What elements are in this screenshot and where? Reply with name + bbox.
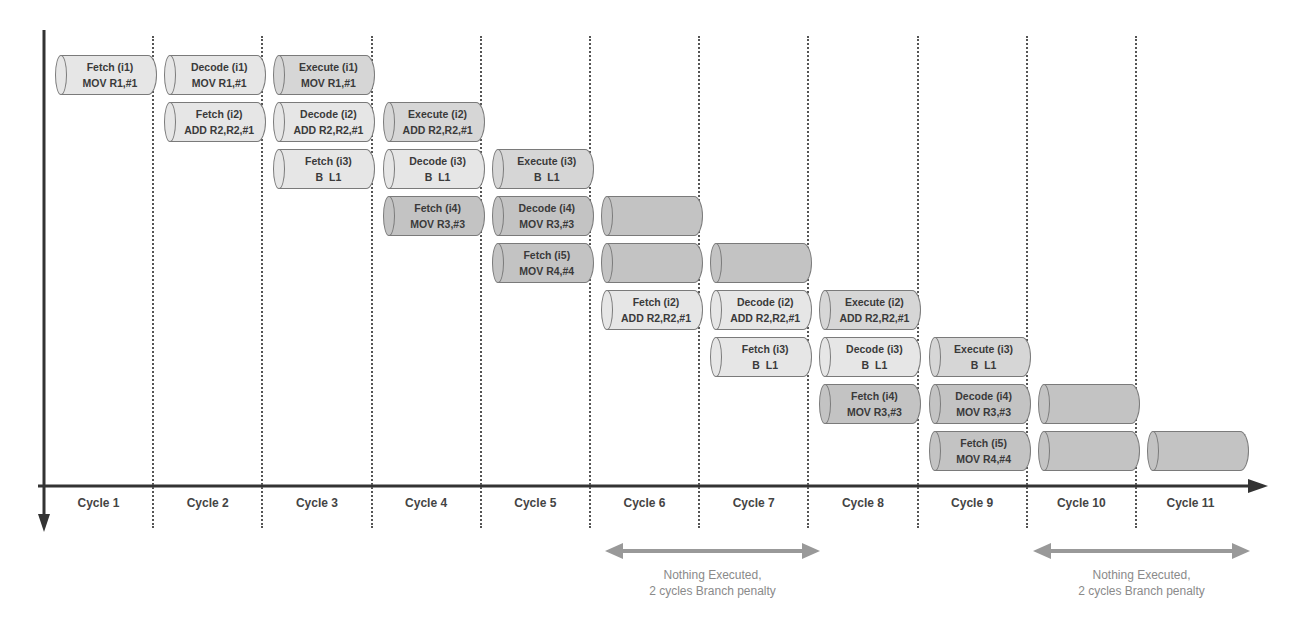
- pipeline-stage: Decode (i3)B L1: [819, 337, 921, 377]
- note-line-2: 2 cycles Branch penalty: [1033, 583, 1250, 599]
- pipeline-stage: Execute (i3)B L1: [929, 337, 1031, 377]
- cylinder-cap: [601, 243, 613, 283]
- pipeline-stage: Fetch (i3)B L1: [710, 337, 812, 377]
- stage-text: Execute (i1)MOV R1,#1: [283, 59, 373, 91]
- stage-label: Decode (i1): [174, 59, 264, 75]
- note-line-1: Nothing Executed,: [605, 567, 820, 583]
- instruction-label: B L1: [939, 357, 1029, 373]
- pipeline-stage: Fetch (i5)MOV R4,#4: [492, 243, 594, 283]
- cycle-label: Cycle 10: [1027, 496, 1136, 510]
- stage-label: Fetch (i5): [939, 435, 1029, 451]
- cycle-label: Cycle 3: [262, 496, 371, 510]
- instruction-label: B L1: [829, 357, 919, 373]
- stage-label: Execute (i3): [939, 341, 1029, 357]
- stage-label: Decode (i3): [393, 153, 483, 169]
- cylinder-cap: [1038, 384, 1050, 424]
- cylinder-body: [1044, 431, 1140, 471]
- stage-text: Decode (i3)B L1: [393, 153, 483, 185]
- cycle-label: Cycle 2: [153, 496, 262, 510]
- stage-text: Fetch (i4)MOV R3,#3: [829, 388, 919, 420]
- stage-label: Execute (i1): [283, 59, 373, 75]
- stage-label: Execute (i3): [502, 153, 592, 169]
- note-line-2: 2 cycles Branch penalty: [605, 583, 820, 599]
- stage-text: Decode (i2)ADD R2,R2,#1: [283, 106, 373, 138]
- stage-label: Fetch (i4): [829, 388, 919, 404]
- pipeline-stage: Execute (i3)B L1: [492, 149, 594, 189]
- stage-text: Fetch (i1)MOV R1,#1: [65, 59, 155, 91]
- instruction-label: MOV R1,#1: [174, 75, 264, 91]
- stage-text: Execute (i2)ADD R2,R2,#1: [393, 106, 483, 138]
- pipeline-stage: Fetch (i1)MOV R1,#1: [55, 55, 157, 95]
- pipeline-stage: Decode (i2)ADD R2,R2,#1: [273, 102, 375, 142]
- stage-label: Decode (i2): [283, 106, 373, 122]
- cylinder-body: [716, 243, 812, 283]
- instruction-label: ADD R2,R2,#1: [283, 122, 373, 138]
- stage-text: Decode (i2)ADD R2,R2,#1: [720, 294, 810, 326]
- stage-text: Fetch (i4)MOV R3,#3: [393, 200, 483, 232]
- pipeline-stage: Decode (i4)MOV R3,#3: [929, 384, 1031, 424]
- stage-label: Fetch (i2): [611, 294, 701, 310]
- instruction-label: ADD R2,R2,#1: [829, 310, 919, 326]
- stage-text: Fetch (i5)MOV R4,#4: [502, 247, 592, 279]
- pipeline-stage: Execute (i1)MOV R1,#1: [273, 55, 375, 95]
- stage-label: Fetch (i3): [283, 153, 373, 169]
- pipeline-bubble: [710, 243, 812, 283]
- instruction-label: MOV R3,#3: [939, 404, 1029, 420]
- stage-label: Decode (i4): [939, 388, 1029, 404]
- cycle-label: Cycle 5: [481, 496, 590, 510]
- cycle-label: Cycle 7: [699, 496, 808, 510]
- pipeline-bubble: [1038, 384, 1140, 424]
- cylinder-cap: [601, 196, 613, 236]
- instruction-label: B L1: [502, 169, 592, 185]
- branch-penalty-note: Nothing Executed,2 cycles Branch penalty: [1033, 567, 1250, 599]
- stage-label: Decode (i4): [502, 200, 592, 216]
- instruction-label: ADD R2,R2,#1: [720, 310, 810, 326]
- pipeline-bubble: [601, 196, 703, 236]
- cylinder-cap: [1038, 431, 1050, 471]
- cylinder-body: [1044, 384, 1140, 424]
- stage-label: Execute (i2): [393, 106, 483, 122]
- stage-text: Decode (i4)MOV R3,#3: [939, 388, 1029, 420]
- stage-label: Fetch (i5): [502, 247, 592, 263]
- cylinder-body: [607, 196, 703, 236]
- left-arrowhead-icon: [605, 543, 623, 559]
- stage-label: Execute (i2): [829, 294, 919, 310]
- right-arrowhead-icon: [1232, 543, 1250, 559]
- pipeline-stage: Fetch (i2)ADD R2,R2,#1: [601, 290, 703, 330]
- pipeline-stage: Execute (i2)ADD R2,R2,#1: [383, 102, 485, 142]
- pipeline-stage: Decode (i2)ADD R2,R2,#1: [710, 290, 812, 330]
- pipeline-stage: Fetch (i2)ADD R2,R2,#1: [164, 102, 266, 142]
- pipeline-stage: Decode (i4)MOV R3,#3: [492, 196, 594, 236]
- pipeline-diagram: Fetch (i1)MOV R1,#1Decode (i1)MOV R1,#1E…: [0, 0, 1307, 633]
- stage-text: Fetch (i5)MOV R4,#4: [939, 435, 1029, 467]
- pipeline-bubble: [1038, 431, 1140, 471]
- cycle-label: Cycle 6: [590, 496, 699, 510]
- stage-text: Decode (i4)MOV R3,#3: [502, 200, 592, 232]
- cycle-label: Cycle 11: [1136, 496, 1245, 510]
- down-arrow-icon: [38, 514, 50, 532]
- right-arrow-icon: [1248, 479, 1268, 493]
- instruction-label: MOV R3,#3: [829, 404, 919, 420]
- stage-label: Fetch (i2): [174, 106, 264, 122]
- pipeline-stage: Decode (i1)MOV R1,#1: [164, 55, 266, 95]
- stage-text: Decode (i3)B L1: [829, 341, 919, 373]
- stage-label: Fetch (i4): [393, 200, 483, 216]
- right-arrowhead-icon: [802, 543, 820, 559]
- instruction-label: B L1: [283, 169, 373, 185]
- pipeline-stage: Fetch (i3)B L1: [273, 149, 375, 189]
- stage-text: Fetch (i2)ADD R2,R2,#1: [611, 294, 701, 326]
- stage-text: Decode (i1)MOV R1,#1: [174, 59, 264, 91]
- instruction-label: MOV R1,#1: [65, 75, 155, 91]
- instruction-label: MOV R3,#3: [393, 216, 483, 232]
- stage-label: Fetch (i1): [65, 59, 155, 75]
- pipeline-stage: Decode (i3)B L1: [383, 149, 485, 189]
- stage-text: Execute (i3)B L1: [502, 153, 592, 185]
- instruction-label: ADD R2,R2,#1: [174, 122, 264, 138]
- cylinder-cap: [1147, 431, 1159, 471]
- branch-penalty-note: Nothing Executed,2 cycles Branch penalty: [605, 567, 820, 599]
- instruction-label: MOV R4,#4: [939, 451, 1029, 467]
- pipeline-bubble: [601, 243, 703, 283]
- pipeline-stage: Fetch (i4)MOV R3,#3: [383, 196, 485, 236]
- stage-text: Fetch (i3)B L1: [720, 341, 810, 373]
- instruction-label: B L1: [393, 169, 483, 185]
